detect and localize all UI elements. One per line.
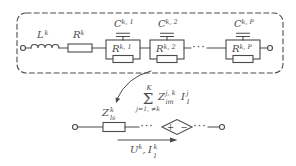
current-label-sup: k bbox=[154, 143, 158, 151]
resistor-p-label-sup: k, P bbox=[240, 43, 253, 51]
capacitor-p-symbol bbox=[237, 33, 250, 40]
top-right-terminal bbox=[268, 46, 273, 51]
mutual-impedance-label-sub: im bbox=[166, 98, 174, 106]
self-impedance-label-sup: k bbox=[110, 106, 114, 114]
capacitor-p-label-sup: k, P bbox=[242, 18, 255, 26]
self-impedance-label-sub: ls bbox=[110, 114, 116, 122]
self-impedance-label: Z bbox=[101, 107, 110, 118]
inductor-label: L bbox=[36, 29, 44, 40]
resistor-2-box bbox=[157, 56, 177, 63]
resistor-1-box bbox=[113, 56, 133, 63]
resistor-2-label-sup: k, 2 bbox=[164, 43, 176, 51]
sum-lower-limit: j=1, ≠k bbox=[134, 105, 160, 113]
capacitor-2-label-sup: k, 2 bbox=[166, 18, 178, 26]
sum-current-label-sup: j bbox=[185, 89, 189, 97]
capacitor-1-label-sup: k, 1 bbox=[122, 18, 134, 26]
self-impedance-box bbox=[103, 123, 125, 132]
flow-label-separator: , bbox=[143, 144, 146, 155]
source-minus-sign: − bbox=[180, 122, 187, 132]
inductor-label-sup: k bbox=[45, 29, 49, 37]
circuit-figure-page: L k R k C k, 1 R k, 1 C k, 2 R k, 2 C k,… bbox=[0, 0, 296, 166]
bottom-left-terminal bbox=[73, 125, 78, 130]
source-plus-sign: + bbox=[167, 122, 174, 132]
labels: L k R k C k, 1 R k, 1 C k, 2 R k, 2 C k,… bbox=[36, 18, 255, 160]
bottom-right-terminal bbox=[220, 125, 225, 130]
flow-arrowhead-icon bbox=[170, 138, 178, 143]
capacitor-2-symbol bbox=[161, 33, 174, 40]
series-resistor-box bbox=[68, 44, 92, 52]
bottom-right-ellipsis: ··· bbox=[193, 120, 207, 133]
sum-current-label-sub: 1 bbox=[186, 98, 190, 106]
resistor-1-label-sup: k, 1 bbox=[120, 43, 132, 51]
capacitor-1-symbol bbox=[117, 33, 130, 40]
top-left-terminal bbox=[21, 46, 26, 51]
inductor-symbol bbox=[31, 45, 59, 48]
current-label-sub: 1 bbox=[153, 152, 157, 160]
bottom-left-ellipsis: ··· bbox=[140, 120, 154, 133]
curved-arrowhead-icon bbox=[116, 97, 121, 103]
equivalent-circuit-diagram: L k R k C k, 1 R k, 1 C k, 2 R k, 2 C k,… bbox=[0, 0, 296, 166]
series-resistor-label-sup: k bbox=[81, 29, 85, 37]
resistor-p-box bbox=[233, 56, 253, 63]
mutual-impedance-label-sup: j, k bbox=[164, 89, 176, 97]
top-ellipsis: ··· bbox=[192, 41, 206, 54]
